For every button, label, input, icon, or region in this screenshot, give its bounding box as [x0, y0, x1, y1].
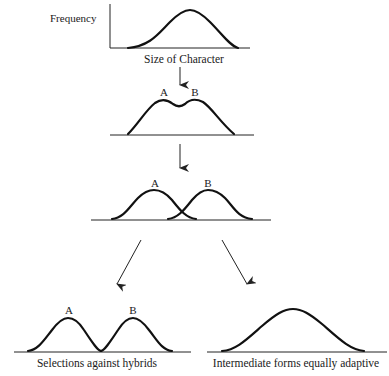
peak-b-label: B [191, 86, 198, 98]
bimodal-curve [128, 100, 234, 134]
panel-overlapping-distributions: A B [91, 177, 271, 220]
panel-selection-against-hybrids: A B Selections against hybrids [14, 304, 191, 370]
distribution-curve [128, 10, 238, 48]
panel-original-distribution: Frequency Size of Character [50, 4, 250, 65]
distribution-a-curve [28, 318, 101, 351]
peak-a-label: A [151, 177, 159, 189]
panel-intermediate-forms: Intermediate forms equally adaptive [207, 309, 387, 370]
arrow-down-left-icon [117, 240, 141, 284]
peak-a-label: A [160, 86, 168, 98]
peak-a-label: A [65, 304, 73, 316]
panel-bimodal-distribution: A B [110, 86, 254, 135]
distribution-b-curve [168, 190, 252, 219]
distribution-b-curve [101, 318, 172, 351]
speciation-diagram: Frequency Size of Character A B A B A B … [0, 0, 389, 376]
y-axis-label: Frequency [50, 12, 97, 24]
distribution-a-curve [112, 190, 196, 219]
distribution-curve [222, 309, 364, 351]
arrow-down-right-icon [222, 240, 247, 284]
peak-b-label: B [129, 304, 136, 316]
caption: Selections against hybrids [37, 357, 158, 370]
peak-b-label: B [204, 177, 211, 189]
x-axis-label: Size of Character [144, 53, 224, 65]
caption: Intermediate forms equally adaptive [213, 357, 379, 370]
